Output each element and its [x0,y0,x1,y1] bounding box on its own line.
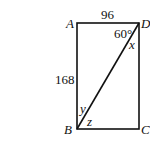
side-ad-length: 96 [101,7,115,22]
vertex-c-label: C [141,122,150,137]
vertex-b-label: B [64,122,72,137]
vertex-a-label: A [65,16,74,31]
angle-x-label: x [128,37,135,52]
geometry-figure: A D B C 96 168 60° x y z [0,0,150,144]
side-ab-length: 168 [55,72,75,87]
angle-z-label: z [86,114,92,129]
vertex-d-label: D [140,16,150,31]
angle-y-label: y [78,101,86,116]
